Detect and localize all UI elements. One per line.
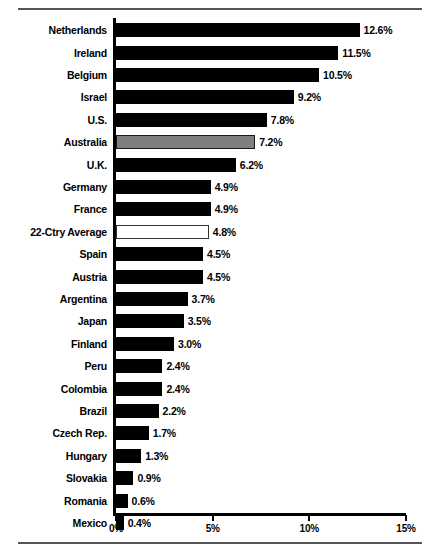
bar-value-label: 12.6% [364,24,393,36]
bar-value-label: 2.4% [166,360,189,372]
category-label: Hungary [66,450,107,462]
bar [116,202,211,216]
bar-row: Belgium10.5% [0,64,439,86]
axis-tick-label: 10% [300,523,319,534]
category-label: Romania [64,495,107,507]
category-label: Czech Rep. [52,427,107,439]
bar-row: Colombia2.4% [0,377,439,399]
bar-value-label: 4.9% [215,203,238,215]
category-label: Austria [72,271,107,283]
bar-value-label: 0.6% [132,495,155,507]
bar-value-label: 9.2% [298,91,321,103]
category-label: France [74,203,107,215]
axis-tick [405,515,407,521]
bar [116,225,209,239]
bar [116,180,211,194]
bar-row: Argentina3.7% [0,288,439,310]
bar-row: Hungary1.3% [0,445,439,467]
bar-row: Netherlands12.6% [0,19,439,41]
category-label: Brazil [80,405,107,417]
bar [116,426,149,440]
axis-tick [115,515,117,521]
category-label: 22-Ctry Average [30,226,107,238]
bar-value-label: 1.7% [153,427,176,439]
category-label: U.S. [87,114,107,126]
bar [116,471,133,485]
category-label: Slovakia [66,472,107,484]
bar-row: Romania0.6% [0,489,439,511]
bar [116,404,159,418]
bar-value-label: 2.4% [166,383,189,395]
bar-value-label: 3.0% [178,338,201,350]
bar-row: Austria4.5% [0,265,439,287]
top-divider-rule [18,8,422,10]
bar-row: Ireland11.5% [0,41,439,63]
bar [116,113,267,127]
axis-tick [212,515,214,521]
bar-row: U.S.7.8% [0,109,439,131]
bar [116,337,174,351]
bar [116,46,338,60]
bar-value-label: 3.7% [192,293,215,305]
bar [116,382,162,396]
category-label: U.K. [87,159,107,171]
plot-area: Netherlands12.6%Ireland11.5%Belgium10.5%… [0,18,439,518]
bar-value-label: 4.9% [215,181,238,193]
bar-value-label: 4.8% [213,226,236,238]
bar-value-label: 0.4% [128,517,151,529]
category-label: Mexico [73,517,107,529]
bar-row: Israel9.2% [0,86,439,108]
bar-value-label: 7.2% [259,136,282,148]
bar [116,494,128,508]
category-label: Colombia [61,383,107,395]
bottom-divider-rule [18,542,422,544]
bar-value-label: 3.5% [188,315,211,327]
bar [116,23,360,37]
bar-value-label: 0.9% [137,472,160,484]
bar-row: Japan3.5% [0,310,439,332]
bar-row: France4.9% [0,198,439,220]
axis-tick [308,515,310,521]
bar [116,292,188,306]
category-label: Peru [84,360,107,372]
bar-value-label: 2.2% [163,405,186,417]
bar [116,135,255,149]
bar-value-label: 6.2% [240,159,263,171]
bar-row: U.K.6.2% [0,153,439,175]
bar-row: Australia7.2% [0,131,439,153]
bar-row: Czech Rep.1.7% [0,422,439,444]
bar-value-label: 1.3% [145,450,168,462]
bar-row: Finland3.0% [0,333,439,355]
category-label: Spain [79,248,107,260]
category-label: Netherlands [49,24,107,36]
category-label: Belgium [67,69,107,81]
bar-row: Brazil2.2% [0,400,439,422]
bar-value-label: 4.5% [207,248,230,260]
category-label: Australia [64,136,107,148]
category-label: Ireland [74,47,107,59]
bar-row: 22-Ctry Average4.8% [0,221,439,243]
bar-value-label: 11.5% [342,47,370,59]
bar [116,158,236,172]
category-label: Finland [71,338,107,350]
category-label: Argentina [60,293,107,305]
bar-row: Germany4.9% [0,176,439,198]
bar [116,68,319,82]
bar [116,247,203,261]
axis-tick-label: 5% [206,523,220,534]
bar [116,270,203,284]
bar-chart-figure: Netherlands12.6%Ireland11.5%Belgium10.5%… [0,0,439,556]
bar [116,90,294,104]
axis-tick-label: 15% [396,523,415,534]
category-label: Israel [81,91,107,103]
bar [116,449,141,463]
axis-tick-label: 0% [109,523,123,534]
bar-value-label: 4.5% [207,271,230,283]
category-label: Germany [63,181,107,193]
bar-row: Spain4.5% [0,243,439,265]
bar-value-label: 10.5% [323,69,352,81]
bar [116,359,162,373]
bar-value-label: 7.8% [271,114,294,126]
bar [116,314,184,328]
bar-row: Slovakia0.9% [0,467,439,489]
